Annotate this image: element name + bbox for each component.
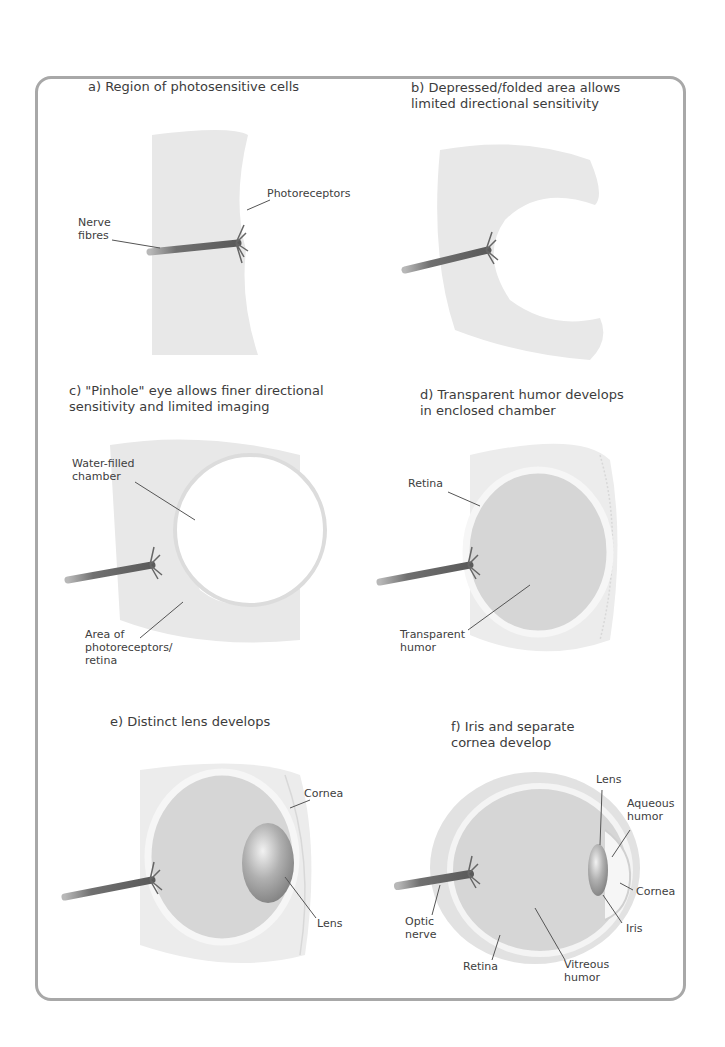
label-photoreceptors: Photoreceptors (267, 187, 351, 200)
label-optic-nerve: Optic nerve (405, 915, 437, 941)
label-retina-f: Retina (463, 960, 498, 973)
label-cornea-f: Cornea (636, 885, 675, 898)
eye-evolution-illustrations (0, 0, 725, 1047)
label-nerve-fibres: Nerve fibres (78, 216, 111, 242)
panel-c-title: c) "Pinhole" eye allows finer directiona… (69, 383, 324, 415)
panel-e-art (65, 764, 316, 963)
panel-a-title: a) Region of photosensitive cells (88, 79, 299, 95)
label-area-of-photoreceptors: Area of photoreceptors/ retina (85, 628, 173, 667)
panel-b-art (405, 144, 603, 360)
panel-d-title: d) Transparent humor develops in enclose… (420, 387, 624, 419)
label-iris: Iris (626, 922, 643, 935)
label-transparent-humor: Transparent humor (400, 628, 465, 654)
panel-a-art (112, 130, 270, 355)
label-vitreous-humor: Vitreous humor (564, 958, 609, 984)
label-lens-f: Lens (596, 773, 621, 786)
panel-b-title: b) Depressed/folded area allows limited … (411, 80, 620, 112)
label-retina-d: Retina (408, 477, 443, 490)
label-lens-e: Lens (317, 917, 342, 930)
label-water-filled-chamber: Water-filled chamber (72, 457, 135, 483)
panel-d-art (380, 444, 618, 652)
label-aqueous-humor: Aqueous humor (627, 797, 675, 823)
panel-f-title: f) Iris and separate cornea develop (451, 719, 574, 751)
label-cornea-e: Cornea (304, 787, 343, 800)
panel-e-title: e) Distinct lens develops (110, 714, 270, 730)
